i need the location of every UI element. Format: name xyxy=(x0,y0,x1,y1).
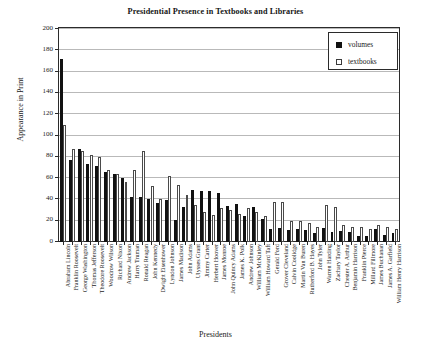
bar-group[interactable] xyxy=(191,28,197,242)
bar-group[interactable] xyxy=(304,28,310,242)
bar-textbooks[interactable] xyxy=(203,212,206,242)
bar-group[interactable] xyxy=(200,28,206,242)
bar-group[interactable] xyxy=(226,28,232,242)
bar-textbooks[interactable] xyxy=(125,182,128,242)
bar-textbooks[interactable] xyxy=(377,225,380,242)
bar-group[interactable] xyxy=(217,28,223,242)
x-axis-tick-label: John Adams xyxy=(187,244,193,274)
bar-textbooks[interactable] xyxy=(386,227,389,242)
bar-group[interactable] xyxy=(182,28,188,242)
bar-textbooks[interactable] xyxy=(168,176,171,242)
y-axis-tick xyxy=(55,241,59,242)
bar-group[interactable] xyxy=(261,28,267,242)
bar-textbooks[interactable] xyxy=(107,170,110,242)
bar-group[interactable] xyxy=(60,28,66,242)
bar-textbooks[interactable] xyxy=(299,221,302,242)
x-axis-tick-label: William Howard Taft xyxy=(265,244,271,296)
bar-group[interactable] xyxy=(208,28,214,242)
bar-textbooks[interactable] xyxy=(290,221,293,242)
y-axis-tick-label: 80 xyxy=(27,152,53,159)
bar-group[interactable] xyxy=(104,28,110,242)
x-axis-tick-label: James K. Polk xyxy=(239,244,245,279)
bar-textbooks[interactable] xyxy=(351,227,354,242)
bar-group[interactable] xyxy=(86,28,92,242)
y-axis-tick xyxy=(55,177,59,178)
bar-textbooks[interactable] xyxy=(81,151,84,242)
x-axis-title: Presidents xyxy=(0,330,431,339)
bar-group[interactable] xyxy=(252,28,258,242)
bar-group[interactable] xyxy=(174,28,180,242)
x-axis-tick-label: Grover Cleveland xyxy=(283,244,289,288)
bar-group[interactable] xyxy=(278,28,284,242)
x-axis-tick-label: Theodore Roosevelt xyxy=(99,244,105,293)
bar-textbooks[interactable] xyxy=(325,205,328,242)
bar-textbooks[interactable] xyxy=(90,155,93,242)
bar-group[interactable] xyxy=(269,28,275,242)
bar-textbooks[interactable] xyxy=(116,174,119,242)
bar-textbooks[interactable] xyxy=(212,215,215,242)
legend-item[interactable]: textbooks xyxy=(336,57,377,66)
bar-textbooks[interactable] xyxy=(360,227,363,242)
bar-textbooks[interactable] xyxy=(238,214,241,242)
bar-textbooks[interactable] xyxy=(133,170,136,242)
bar-textbooks[interactable] xyxy=(72,149,75,242)
bar-textbooks[interactable] xyxy=(98,157,101,242)
x-axis-tick-label: William McKinley xyxy=(256,244,262,290)
x-axis-tick-label: Andrew Jackson xyxy=(126,244,132,284)
bar-textbooks[interactable] xyxy=(159,199,162,242)
x-axis-tick-label: Harry Truman xyxy=(134,244,140,279)
bar-group[interactable] xyxy=(147,28,153,242)
bar-group[interactable] xyxy=(243,28,249,242)
legend-label: volumes xyxy=(348,40,373,49)
y-axis-tick xyxy=(55,156,59,157)
y-axis-tick xyxy=(55,28,59,29)
bar-group[interactable] xyxy=(139,28,145,242)
x-axis-tick-label: James Buchanan xyxy=(378,244,384,285)
y-axis-tick xyxy=(55,113,59,114)
bar-textbooks[interactable] xyxy=(316,227,319,242)
bar-group[interactable] xyxy=(313,28,319,242)
bar-group[interactable] xyxy=(156,28,162,242)
bar-group[interactable] xyxy=(165,28,171,242)
x-axis-tick-label: Franklin Roosevelt xyxy=(73,244,79,291)
y-axis-tick xyxy=(55,220,59,221)
bar-group[interactable] xyxy=(113,28,119,242)
bar-textbooks[interactable] xyxy=(177,185,180,243)
bar-textbooks[interactable] xyxy=(151,186,154,242)
legend-item[interactable]: volumes xyxy=(336,40,373,49)
bar-textbooks[interactable] xyxy=(194,205,197,242)
y-axis-tick xyxy=(55,135,59,136)
bar-textbooks[interactable] xyxy=(220,208,223,242)
bar-textbooks[interactable] xyxy=(273,202,276,242)
bar-textbooks[interactable] xyxy=(247,208,250,242)
bar-textbooks[interactable] xyxy=(264,216,267,242)
bar-group[interactable] xyxy=(235,28,241,242)
bar-textbooks[interactable] xyxy=(229,210,232,242)
bar-group[interactable] xyxy=(287,28,293,242)
y-axis-tick xyxy=(55,49,59,50)
bar-textbooks[interactable] xyxy=(186,195,189,242)
bar-group[interactable] xyxy=(121,28,127,242)
x-axis-tick-label: Franklin Pierce xyxy=(361,244,367,281)
bar-group[interactable] xyxy=(130,28,136,242)
bar-group[interactable] xyxy=(69,28,75,242)
bar-textbooks[interactable] xyxy=(281,202,284,242)
x-axis-tick-labels: Abraham LincolnFranklin RooseveltGeorge … xyxy=(58,244,400,328)
y-axis-tick xyxy=(55,71,59,72)
bar-textbooks[interactable] xyxy=(342,225,345,242)
bar-textbooks[interactable] xyxy=(334,207,337,242)
bar-group[interactable] xyxy=(296,28,302,242)
x-axis-tick-label: Martin Van Buren xyxy=(300,244,306,288)
bar-textbooks[interactable] xyxy=(142,151,145,242)
legend-swatch-icon xyxy=(336,59,342,65)
x-axis-tick-label: Warren Harding xyxy=(326,244,332,283)
bar-group[interactable] xyxy=(78,28,84,242)
y-axis-tick-label: 160 xyxy=(27,67,53,74)
y-axis-tick-label: 100 xyxy=(27,131,53,138)
y-axis-tick-label: 140 xyxy=(27,88,53,95)
bar-group[interactable] xyxy=(95,28,101,242)
bar-textbooks[interactable] xyxy=(255,212,258,242)
y-axis-tick-label: 180 xyxy=(27,46,53,53)
bar-textbooks[interactable] xyxy=(63,125,66,242)
bar-textbooks[interactable] xyxy=(308,223,311,242)
